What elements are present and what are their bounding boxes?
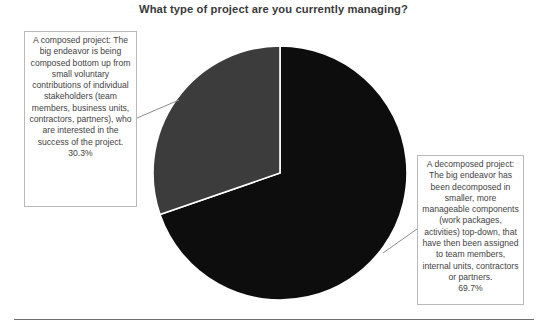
chart-title: What type of project are you currently m…	[0, 3, 547, 15]
pie-chart-figure: What type of project are you currently m…	[0, 0, 547, 330]
pie-svg	[152, 45, 408, 301]
callout-decomposed-percent: 69.7%	[422, 283, 519, 294]
callout-composed-percent: 30.3%	[29, 148, 132, 159]
pie-chart	[152, 45, 408, 301]
callout-composed-text: A composed project: The big endeavor is …	[29, 35, 131, 147]
callout-composed[interactable]: A composed project: The big endeavor is …	[24, 31, 137, 207]
callout-decomposed-text: A decomposed project: The big endeavor h…	[422, 159, 519, 282]
bottom-divider	[14, 319, 534, 320]
callout-decomposed[interactable]: A decomposed project: The big endeavor h…	[417, 155, 524, 305]
